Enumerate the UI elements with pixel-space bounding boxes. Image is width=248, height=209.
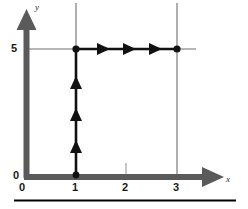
- path-arrow-up-3: [70, 76, 82, 89]
- x-axis-label: x: [226, 175, 230, 184]
- x-axis-arrowhead: [202, 167, 224, 187]
- path-arrow-right-3: [149, 43, 162, 55]
- directed-path: [70, 43, 181, 178]
- path-arrow-right-2: [123, 43, 136, 55]
- coordinate-plot-svg: [0, 0, 248, 209]
- path-vertex-dot-3-5: [173, 45, 180, 52]
- path-arrow-right-1: [97, 43, 110, 55]
- y-tick-label-5: 5: [11, 43, 17, 54]
- gridlines: [25, 3, 196, 177]
- origin-label-x: 0: [19, 182, 25, 193]
- x-tick-label-3: 3: [173, 182, 179, 193]
- path-vertex-dot-1-5: [72, 45, 79, 52]
- path-arrow-up-2: [70, 108, 82, 121]
- path-vertex-dot-1-0: [73, 172, 80, 179]
- x-tick-label-1: 1: [72, 182, 78, 193]
- y-axis-label: y: [35, 3, 39, 12]
- path-arrow-up-1: [70, 140, 82, 153]
- origin-label-y: 0: [13, 170, 19, 181]
- figure-canvas: 5 0 0 1 2 3 y x: [0, 0, 248, 209]
- axes: [17, 9, 225, 187]
- x-tick-label-2: 2: [122, 182, 128, 193]
- y-axis-arrowhead: [17, 9, 37, 30]
